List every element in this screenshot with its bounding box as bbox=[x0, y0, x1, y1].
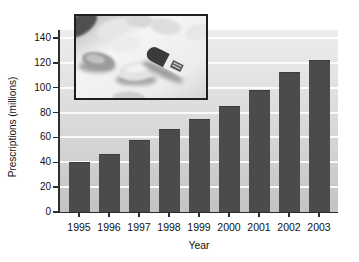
x-tick-label-1999: 1999 bbox=[182, 221, 216, 233]
x-tick-mark bbox=[138, 213, 139, 217]
bar-1999 bbox=[189, 119, 210, 212]
y-tick-label-40: 40 bbox=[11, 157, 51, 167]
y-tick-label-100: 100 bbox=[11, 83, 51, 93]
bar-1997 bbox=[129, 140, 150, 212]
x-tick-label-1997: 1997 bbox=[122, 221, 156, 233]
x-tick-mark bbox=[228, 213, 229, 217]
y-tick-mark bbox=[53, 162, 58, 163]
bar-2002 bbox=[279, 72, 300, 212]
x-tick-label-2001: 2001 bbox=[242, 221, 276, 233]
x-tick-mark bbox=[198, 213, 199, 217]
x-tick-label-1995: 1995 bbox=[62, 221, 96, 233]
x-tick-mark bbox=[258, 213, 259, 217]
x-tick-label-2003: 2003 bbox=[302, 221, 336, 233]
bar-1995 bbox=[69, 162, 90, 212]
y-tick-mark bbox=[53, 112, 58, 113]
x-tick-label-2000: 2000 bbox=[212, 221, 246, 233]
y-tick-label-120: 120 bbox=[11, 58, 51, 68]
y-axis-line bbox=[58, 30, 60, 213]
bar-1996 bbox=[99, 154, 120, 212]
y-tick-mark bbox=[53, 211, 58, 212]
x-tick-mark bbox=[78, 213, 79, 217]
y-tick-label-140: 140 bbox=[11, 33, 51, 43]
y-tick-mark bbox=[53, 186, 58, 187]
bar-2003 bbox=[309, 60, 330, 212]
y-tick-label-60: 60 bbox=[11, 132, 51, 142]
bar-2000 bbox=[219, 106, 240, 212]
x-tick-mark bbox=[168, 213, 169, 217]
bar-2001 bbox=[249, 90, 270, 212]
bar-1998 bbox=[159, 129, 180, 212]
y-tick-mark bbox=[53, 137, 58, 138]
x-tick-label-2002: 2002 bbox=[272, 221, 306, 233]
y-tick-label-0: 0 bbox=[11, 207, 51, 217]
prescriptions-bar-chart-figure: Prescriptions (millions) 020406080100120… bbox=[0, 0, 359, 262]
x-axis-title: Year bbox=[188, 239, 209, 251]
y-tick-mark bbox=[53, 62, 58, 63]
x-tick-mark bbox=[318, 213, 319, 217]
pills-photo-inset bbox=[74, 14, 208, 100]
y-tick-mark bbox=[53, 37, 58, 38]
x-tick-label-1998: 1998 bbox=[152, 221, 186, 233]
y-tick-label-80: 80 bbox=[11, 108, 51, 118]
x-tick-label-1996: 1996 bbox=[92, 221, 126, 233]
y-tick-label-20: 20 bbox=[11, 182, 51, 192]
y-tick-mark bbox=[53, 87, 58, 88]
x-tick-mark bbox=[288, 213, 289, 217]
x-tick-mark bbox=[108, 213, 109, 217]
pills-photo-illustration bbox=[76, 16, 206, 98]
